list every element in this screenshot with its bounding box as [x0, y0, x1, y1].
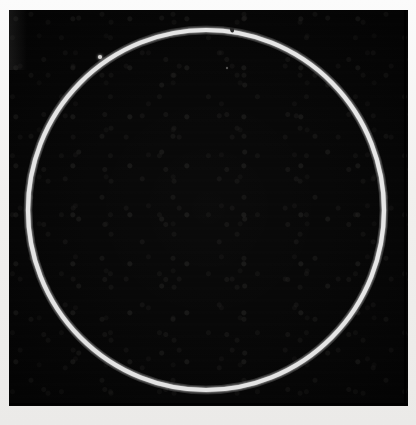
point-source-marker: [98, 55, 102, 59]
image-canvas: [0, 0, 416, 425]
photographic-plate: [9, 10, 408, 406]
ring-figure: [9, 10, 408, 406]
ring-outline: [28, 30, 384, 390]
faint-speck-marker: [226, 67, 228, 69]
